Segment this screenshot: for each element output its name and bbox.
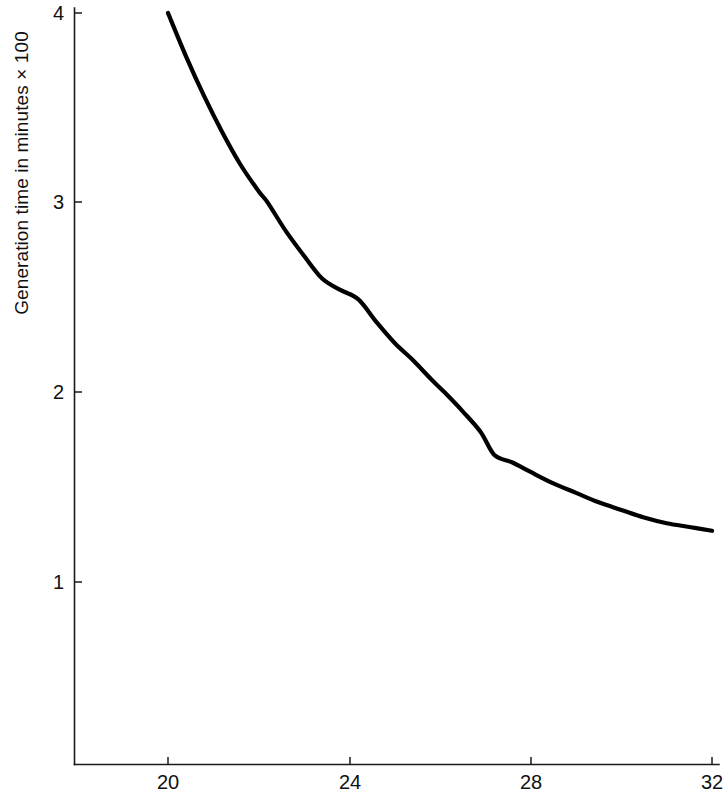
- y-tick-label-1: 1: [36, 572, 64, 592]
- x-tick-label-28: 28: [520, 772, 542, 792]
- y-tick-label-3: 3: [36, 192, 64, 212]
- x-tick-label-24: 24: [339, 772, 361, 792]
- data-curve-generation-time: [168, 13, 712, 531]
- y-axis-title: Generation time in minutes × 100: [11, 0, 33, 433]
- x-tick-label-20: 20: [157, 772, 179, 792]
- x-tick-label-32: 32: [701, 772, 723, 792]
- chart-figure: 4 3 2 1 20 24 28 32 Generation time in m…: [0, 0, 723, 810]
- y-tick-label-2: 2: [36, 382, 64, 402]
- plot-area: [0, 0, 723, 810]
- y-tick-label-4: 4: [36, 3, 64, 23]
